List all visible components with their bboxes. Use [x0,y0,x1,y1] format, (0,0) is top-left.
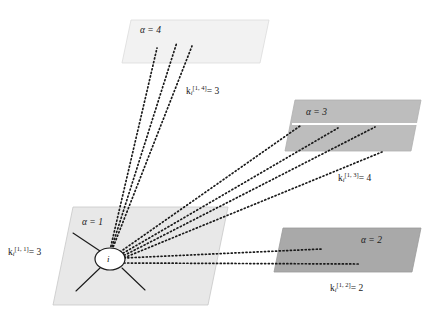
degree-superscript: [1, 4] [193,84,207,91]
degree-equals-value: = 4 [359,173,371,183]
multiplex-network-diagram: α = 1 α = 2 α = 3 α = 4 i ki[1, 1]= 3 ki… [0,0,422,314]
layer-plane-alpha-1 [53,207,228,305]
layer-plane-alpha-2 [274,228,421,272]
degree-label-alpha-4: ki[1, 4]= 3 [186,85,219,97]
node-i [95,248,125,270]
node-label-i: i [107,254,110,264]
layer-label-alpha-4: α = 4 [140,26,161,36]
degree-equals-value: = 3 [29,247,41,257]
degree-label-alpha-2: ki[1, 2]= 2 [330,282,363,294]
layer-label-alpha-2: α = 2 [361,236,382,246]
degree-equals-value: = 2 [351,283,363,293]
layer-label-alpha-3: α = 3 [306,108,327,118]
degree-equals-value: = 3 [207,86,219,96]
layer-label-alpha-1: α = 1 [82,218,103,228]
degree-label-alpha-3: ki[1, 3]= 4 [338,172,371,184]
degree-superscript: [1, 3] [345,171,359,178]
degree-superscript: [1, 1] [15,245,29,252]
diagram-canvas [0,0,422,314]
degree-superscript: [1, 2] [337,281,351,288]
degree-label-alpha-1: ki[1, 1]= 3 [8,246,41,258]
